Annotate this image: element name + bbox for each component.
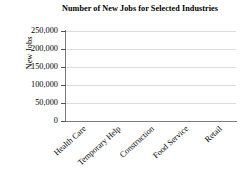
chart-container: Number of New Jobs for Selected Industri… (0, 0, 247, 193)
gridline (66, 49, 236, 50)
y-axis-tick (61, 121, 66, 122)
gridline (66, 67, 236, 68)
y-axis-tick (61, 103, 66, 104)
y-axis-tick (61, 85, 66, 86)
plot-area (66, 31, 236, 121)
y-axis-tick-label: 0 (14, 116, 58, 125)
x-axis-tick-label-text: Retail (203, 124, 224, 144)
x-axis-tick-label-text: Construction (118, 124, 156, 159)
x-axis-tick-label-text: Food Service (151, 124, 190, 160)
gridline (66, 31, 236, 32)
y-axis-tick (61, 67, 66, 68)
y-axis-tick (61, 31, 66, 32)
gridline (66, 85, 236, 86)
y-axis-line (65, 30, 66, 122)
x-axis-line (65, 121, 237, 122)
y-axis-tick-label: 250,000 (14, 26, 58, 35)
gridline (66, 103, 236, 104)
chart-title: Number of New Jobs for Selected Industri… (40, 4, 240, 14)
y-axis-tick-labels: 250,000200,000150,000100,00050,0000 (14, 0, 58, 193)
y-axis-tick-label: 200,000 (14, 44, 58, 53)
y-axis-tick-label: 100,000 (14, 80, 58, 89)
y-axis-tick-label: 50,000 (14, 98, 58, 107)
y-axis-tick-label: 150,000 (14, 62, 58, 71)
y-axis-tick (61, 49, 66, 50)
